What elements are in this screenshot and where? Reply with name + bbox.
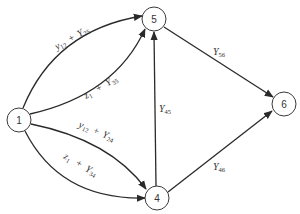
node-6: 6 — [272, 92, 296, 116]
edge-label-4-6: Y46 — [213, 161, 226, 173]
edge-label-1-4-lower: z1+Y34 — [61, 150, 101, 180]
edge-1-5-lower — [30, 29, 145, 114]
edge-4-6 — [168, 111, 272, 192]
node-5-label: 5 — [151, 14, 157, 25]
node-6-label: 6 — [281, 99, 287, 110]
node-1-label: 1 — [16, 115, 22, 126]
edge-label-4-5: Y45 — [159, 103, 171, 115]
edge-1-4-upper — [31, 124, 146, 189]
network-diagram: y12+Y25 z1+Y35 y12+Y24 z1+Y34 Y45 Y56 Y4… — [0, 0, 300, 214]
edge-4-5 — [154, 32, 156, 186]
node-4: 4 — [145, 186, 169, 210]
edge-label-1-5-lower: z1+Y35 — [81, 73, 120, 102]
edge-5-6 — [164, 27, 273, 97]
node-5: 5 — [142, 7, 166, 31]
node-1: 1 — [7, 108, 31, 132]
edge-label-1-5-upper: y12+Y25 — [52, 23, 92, 53]
node-4-label: 4 — [154, 193, 160, 204]
edge-label-5-6: Y56 — [213, 46, 226, 58]
